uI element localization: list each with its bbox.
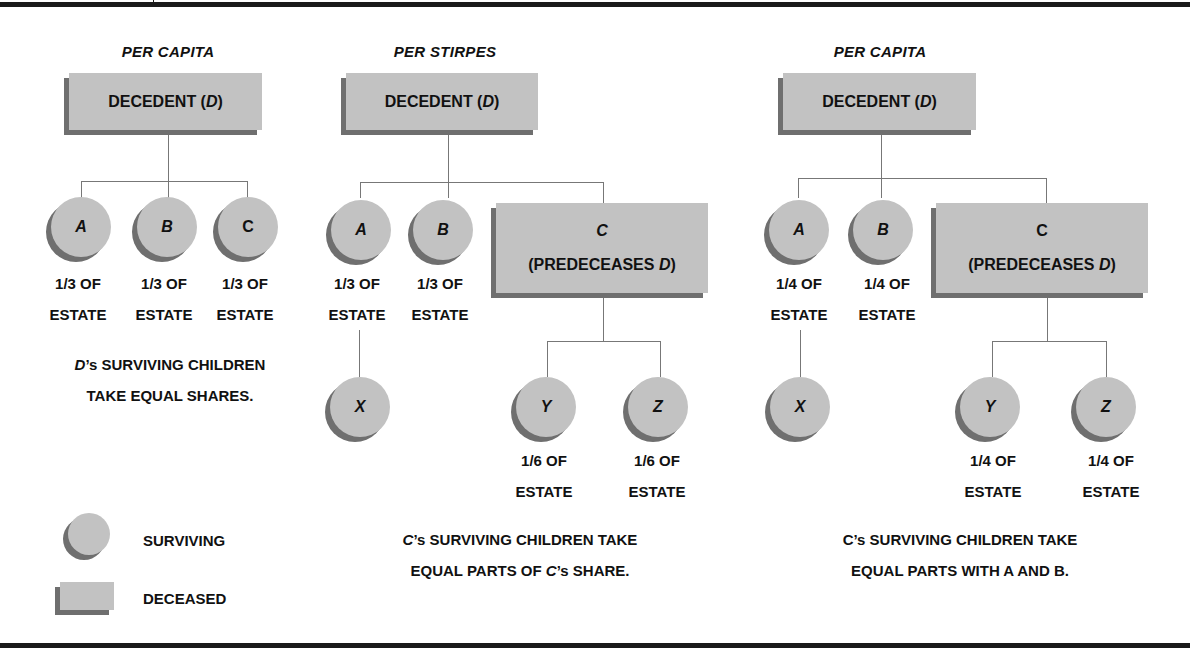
share-label-y: 1/6 OFESTATE: [504, 445, 584, 507]
legend-label-surviving: SURVIVING: [143, 532, 225, 549]
decedent-label: DECEDENT (D): [108, 85, 223, 119]
connector: [798, 178, 1046, 179]
connector: [1106, 341, 1107, 377]
share-label-b: 1/3 OFESTATE: [400, 268, 480, 330]
grandchild-node-z: Z: [628, 377, 688, 437]
share-label-z: 1/4 OFESTATE: [1071, 445, 1151, 507]
connector: [168, 135, 169, 181]
child-node-b: B: [853, 200, 913, 260]
share-label-z: 1/6 OFESTATE: [617, 445, 697, 507]
share-label-c: 1/3 OFESTATE: [205, 268, 285, 330]
share-label-a: 1/3 OFESTATE: [317, 268, 397, 330]
grandchild-node-y: Y: [960, 377, 1020, 437]
child-node-c: C: [218, 197, 278, 257]
child-node-b: B: [413, 200, 473, 260]
deceased-box-icon: [60, 582, 114, 610]
connector: [547, 341, 548, 377]
grandchild-node-x: X: [770, 377, 830, 437]
decedent-label: DECEDENT (D): [822, 85, 937, 119]
top-rule-tick: [153, 0, 154, 4]
panel-heading: PER CAPITA: [98, 43, 238, 60]
child-node-c-deceased: C (PREDECEASES D): [496, 203, 708, 293]
share-label-a: 1/4 OFESTATE: [759, 268, 839, 330]
share-label-b: 1/4 OFESTATE: [847, 268, 927, 330]
connector: [448, 182, 449, 198]
connector: [247, 181, 248, 198]
connector: [1046, 178, 1047, 203]
child-node-a: A: [769, 200, 829, 260]
connector: [81, 181, 82, 198]
child-node-a: A: [331, 200, 391, 260]
connector: [798, 178, 799, 198]
child-node-c-deceased: C (PREDECEASES D): [936, 203, 1148, 293]
connector: [168, 181, 169, 198]
connector: [448, 135, 449, 182]
decedent-label: DECEDENT (D): [385, 85, 500, 119]
connector: [992, 341, 993, 377]
grandchild-node-z: Z: [1076, 377, 1136, 437]
panel-heading: PER CAPITA: [810, 43, 950, 60]
decedent-node: DECEDENT (D): [346, 73, 538, 130]
connector: [359, 330, 360, 377]
connector: [360, 182, 361, 198]
share-label-a: 1/3 OFESTATE: [38, 268, 118, 330]
connector: [881, 135, 882, 178]
connector: [881, 178, 882, 198]
top-rule: [0, 2, 1190, 7]
connector: [992, 341, 1106, 342]
connector: [360, 182, 603, 183]
connector: [800, 330, 801, 377]
connector: [547, 341, 660, 342]
connector: [1047, 298, 1048, 341]
decedent-node: DECEDENT (D): [69, 73, 262, 130]
connector: [660, 341, 661, 377]
surviving-circle-icon: [68, 513, 110, 555]
panel-caption: C’s SURVIVING CHILDREN TAKE EQUAL PARTS …: [790, 524, 1130, 586]
legend-label-deceased: DECEASED: [143, 590, 226, 607]
child-node-b: B: [137, 197, 197, 257]
connector: [603, 298, 604, 341]
decedent-node: DECEDENT (D): [783, 73, 976, 130]
grandchild-node-y: Y: [516, 377, 576, 437]
connector: [603, 182, 604, 203]
bottom-rule: [0, 643, 1190, 648]
share-label-b: 1/3 OFESTATE: [124, 268, 204, 330]
panel-caption: C’s SURVIVING CHILDREN TAKE EQUAL PARTS …: [355, 524, 685, 586]
connector: [81, 181, 247, 182]
grandchild-node-x: X: [330, 377, 390, 437]
share-label-y: 1/4 OFESTATE: [953, 445, 1033, 507]
panel-caption: D’s SURVIVING CHILDREN TAKE EQUAL SHARES…: [40, 349, 300, 411]
panel-heading: PER STIRPES: [375, 43, 515, 60]
child-node-a: A: [51, 197, 111, 257]
